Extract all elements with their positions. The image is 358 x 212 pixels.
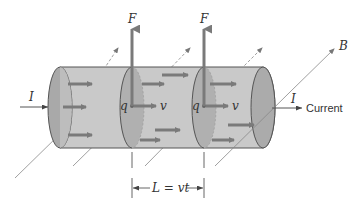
current-word-label: Current	[306, 102, 343, 114]
wire-end-face-right	[251, 67, 275, 148]
wire-force-diagram: F F B I I Current q q v v L = vt	[0, 0, 358, 212]
charge-label-right: q	[192, 99, 200, 113]
charge-label-left: q	[120, 99, 128, 113]
current-in-label: I	[28, 90, 34, 104]
length-label: L = vt	[151, 181, 189, 195]
force-label-left: F	[127, 12, 137, 26]
velocity-label-left: v	[160, 99, 167, 113]
force-label-right: F	[199, 12, 209, 26]
current-out-label: I	[290, 92, 296, 106]
velocity-label-right: v	[232, 99, 239, 113]
field-arrow-B	[290, 49, 334, 92]
field-label: B	[338, 39, 348, 53]
